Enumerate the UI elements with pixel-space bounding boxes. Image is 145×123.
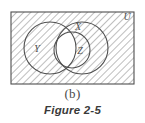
set-label-z: Z: [77, 45, 83, 56]
venn-diagram-area: U Y X Z: [0, 0, 145, 92]
venn-diagram-svg: U Y X Z: [0, 0, 145, 92]
set-label-u: U: [123, 11, 131, 22]
subfigure-label: (b): [0, 86, 145, 102]
figure-2-5: U Y X Z (b) Figure 2-5: [0, 0, 145, 123]
figure-caption: Figure 2-5: [0, 104, 145, 116]
set-label-x: X: [74, 21, 82, 32]
